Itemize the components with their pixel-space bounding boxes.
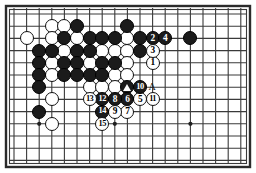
move-stone-15: 15 [95,117,109,131]
star-point [37,122,41,126]
move-stone-9: 9 [108,105,122,119]
move-number-11: 11 [149,95,156,103]
point-label-A: A [149,82,156,92]
move-stone-7: 7 [120,105,134,119]
go-diagram: 123456789101112131415A [0,0,256,173]
move-number-12: 12 [99,95,106,103]
white-stone [20,31,34,45]
star-point [188,122,192,126]
move-number-14: 14 [99,107,106,115]
move-number-5: 5 [138,95,142,104]
black-stone [70,68,84,82]
move-stone-1: 1 [146,56,160,70]
move-number-13: 13 [86,95,93,103]
star-point [113,122,117,126]
move-number-4: 4 [163,34,167,43]
black-stone [133,44,147,58]
triangle-marker-icon [123,84,131,91]
black-stone [83,44,97,58]
move-number-15: 15 [99,120,106,128]
move-number-10: 10 [136,83,143,91]
black-stone [32,105,46,119]
move-number-7: 7 [125,107,129,116]
move-number-6: 6 [125,95,129,104]
move-number-3: 3 [151,46,155,55]
white-stone [45,117,59,131]
black-stone [45,44,59,58]
move-stone-3: 3 [146,44,160,58]
move-number-8: 8 [113,95,117,104]
move-number-9: 9 [113,107,117,116]
move-number-1: 1 [151,58,155,67]
move-number-2: 2 [151,34,155,43]
black-stone [108,56,122,70]
move-stone-13: 13 [83,92,97,106]
move-stone-11: 11 [146,92,160,106]
